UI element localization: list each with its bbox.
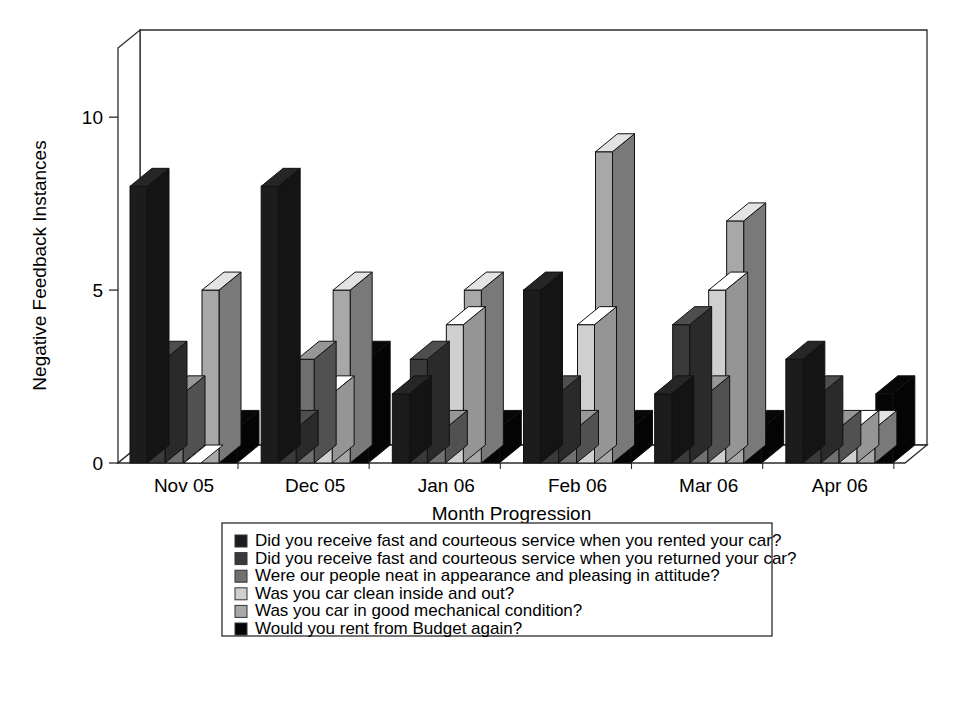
bar-side-face [219,272,241,463]
bar-front-face [655,394,672,463]
y-tick-label: 10 [82,107,103,128]
bar-side-face [278,168,300,463]
bar-front-face [130,186,147,463]
x-axis: Nov 05Dec 05Jan 06Feb 06Mar 06Apr 06 [154,463,894,496]
bar-chart: 0510 Nov 05Dec 05Jan 06Feb 06Mar 06Apr 0… [0,0,971,707]
legend-swatch [235,570,247,582]
bar-side-face [803,341,825,463]
legend-swatch [235,605,247,617]
legend-label: Did you receive fast and courteous servi… [255,549,796,568]
legend-swatch [235,588,247,600]
x-axis-title: Month Progression [432,503,591,524]
legend-label: Was you car in good mechanical condition… [255,601,582,620]
legend-swatch [235,623,247,635]
legend-item[interactable]: Would you rent from Budget again? [235,619,522,638]
bar [524,272,563,463]
legend-swatch [235,553,247,565]
legend-item[interactable]: Were our people neat in appearance and p… [235,566,720,585]
bar-front-face [261,186,278,463]
x-category-label: Feb 06 [548,475,607,496]
legend-label: Was you car clean inside and out? [255,584,514,603]
bar [392,376,431,463]
bar [655,376,694,463]
legend-item[interactable]: Did you receive fast and courteous servi… [235,531,781,550]
x-category-label: Dec 05 [285,475,345,496]
x-category-label: Nov 05 [154,475,214,496]
x-category-label: Apr 06 [812,475,868,496]
legend-item[interactable]: Was you car in good mechanical condition… [235,601,582,620]
bar-side-face [147,168,169,463]
legend-item[interactable]: Did you receive fast and courteous servi… [235,549,796,568]
legend-label: Did you receive fast and courteous servi… [255,531,781,550]
legend-item[interactable]: Was you car clean inside and out? [235,584,514,603]
bar-front-face [524,290,541,463]
bar [786,341,825,463]
legend-swatch [235,535,247,547]
chart-legend: Did you receive fast and courteous servi… [222,523,796,638]
chart-canvas: 0510 Nov 05Dec 05Jan 06Feb 06Mar 06Apr 0… [0,0,971,707]
bar-side-face [541,272,563,463]
x-category-label: Jan 06 [418,475,475,496]
bar [130,168,169,463]
y-tick-label: 0 [92,453,103,474]
legend-label: Would you rent from Budget again? [255,619,522,638]
x-category-label: Mar 06 [679,475,738,496]
y-axis: 0510 [82,107,118,474]
y-tick-label: 5 [92,280,103,301]
legend-label: Were our people neat in appearance and p… [255,566,720,585]
bar-front-face [392,394,409,463]
bar [202,272,241,463]
y-axis-title: Negative Feedback Instances [29,140,50,390]
bar-front-face [786,359,803,463]
bar [261,168,300,463]
